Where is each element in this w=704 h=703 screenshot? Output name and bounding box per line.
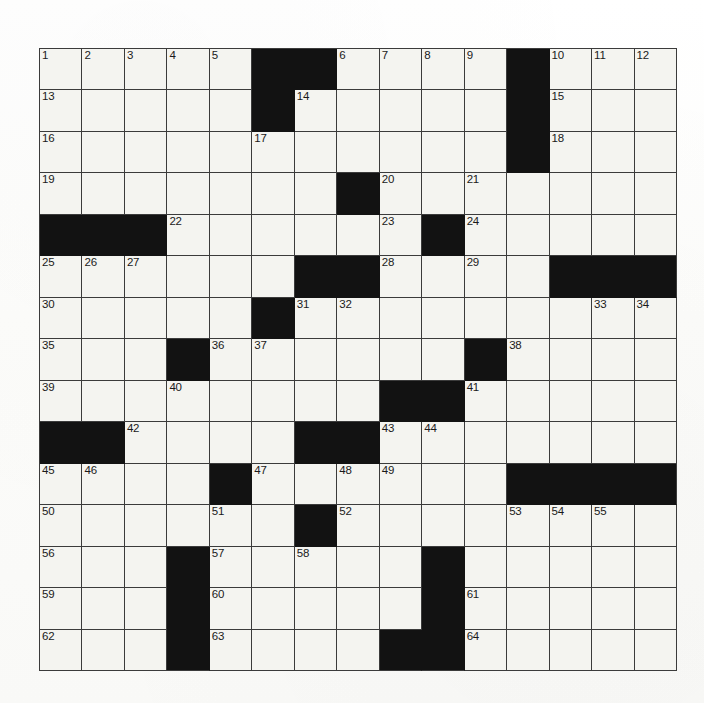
crossword-cell[interactable]: 12	[635, 49, 677, 90]
crossword-cell[interactable]: 29	[465, 256, 507, 297]
crossword-cell[interactable]	[167, 256, 209, 297]
crossword-cell[interactable]	[592, 173, 634, 214]
crossword-cell[interactable]: 35	[40, 339, 82, 380]
crossword-cell[interactable]	[210, 381, 252, 422]
crossword-cell[interactable]	[167, 132, 209, 173]
crossword-cell[interactable]	[507, 173, 549, 214]
crossword-cell[interactable]: 7	[380, 49, 422, 90]
crossword-cell[interactable]: 32	[337, 298, 379, 339]
crossword-cell[interactable]	[592, 588, 634, 629]
crossword-cell[interactable]	[380, 505, 422, 546]
crossword-cell[interactable]	[82, 588, 124, 629]
crossword-cell[interactable]: 48	[337, 464, 379, 505]
crossword-cell[interactable]: 64	[465, 630, 507, 671]
crossword-cell[interactable]	[635, 588, 677, 629]
crossword-cell[interactable]: 45	[40, 464, 82, 505]
crossword-cell[interactable]: 46	[82, 464, 124, 505]
crossword-cell[interactable]: 22	[167, 215, 209, 256]
crossword-cell[interactable]: 47	[252, 464, 294, 505]
crossword-cell[interactable]	[550, 339, 592, 380]
crossword-cell[interactable]	[465, 505, 507, 546]
crossword-cell[interactable]	[125, 547, 167, 588]
crossword-cell[interactable]	[82, 339, 124, 380]
crossword-cell[interactable]	[252, 381, 294, 422]
crossword-cell[interactable]: 53	[507, 505, 549, 546]
crossword-cell[interactable]	[507, 256, 549, 297]
crossword-cell[interactable]: 55	[592, 505, 634, 546]
crossword-cell[interactable]	[635, 381, 677, 422]
crossword-cell[interactable]	[252, 547, 294, 588]
crossword-cell[interactable]	[465, 298, 507, 339]
crossword-cell[interactable]	[592, 381, 634, 422]
crossword-cell[interactable]	[422, 132, 464, 173]
crossword-cell[interactable]	[592, 215, 634, 256]
crossword-cell[interactable]	[295, 588, 337, 629]
crossword-cell[interactable]: 18	[550, 132, 592, 173]
crossword-cell[interactable]: 41	[465, 381, 507, 422]
crossword-cell[interactable]	[337, 547, 379, 588]
crossword-cell[interactable]	[82, 505, 124, 546]
crossword-cell[interactable]	[125, 381, 167, 422]
crossword-cell[interactable]: 9	[465, 49, 507, 90]
crossword-cell[interactable]	[125, 339, 167, 380]
crossword-cell[interactable]	[167, 422, 209, 463]
crossword-cell[interactable]: 42	[125, 422, 167, 463]
crossword-cell[interactable]	[295, 630, 337, 671]
crossword-cell[interactable]	[422, 298, 464, 339]
crossword-cell[interactable]	[295, 132, 337, 173]
crossword-cell[interactable]	[337, 215, 379, 256]
crossword-cell[interactable]	[252, 256, 294, 297]
crossword-cell[interactable]: 49	[380, 464, 422, 505]
crossword-cell[interactable]	[550, 381, 592, 422]
crossword-cell[interactable]	[507, 588, 549, 629]
crossword-cell[interactable]	[507, 630, 549, 671]
crossword-cell[interactable]: 4	[167, 49, 209, 90]
crossword-cell[interactable]	[167, 464, 209, 505]
crossword-cell[interactable]: 44	[422, 422, 464, 463]
crossword-cell[interactable]: 61	[465, 588, 507, 629]
crossword-cell[interactable]	[465, 132, 507, 173]
crossword-cell[interactable]: 17	[252, 132, 294, 173]
crossword-cell[interactable]: 58	[295, 547, 337, 588]
crossword-cell[interactable]: 34	[635, 298, 677, 339]
crossword-cell[interactable]	[635, 215, 677, 256]
crossword-cell[interactable]	[337, 630, 379, 671]
crossword-cell[interactable]	[380, 588, 422, 629]
crossword-cell[interactable]: 21	[465, 173, 507, 214]
crossword-cell[interactable]: 19	[40, 173, 82, 214]
crossword-cell[interactable]: 5	[210, 49, 252, 90]
crossword-cell[interactable]	[380, 132, 422, 173]
crossword-cell[interactable]: 63	[210, 630, 252, 671]
crossword-cell[interactable]	[295, 339, 337, 380]
crossword-cell[interactable]	[210, 256, 252, 297]
crossword-cell[interactable]: 43	[380, 422, 422, 463]
crossword-cell[interactable]: 3	[125, 49, 167, 90]
crossword-cell[interactable]: 28	[380, 256, 422, 297]
crossword-cell[interactable]	[465, 547, 507, 588]
crossword-cell[interactable]: 24	[465, 215, 507, 256]
crossword-cell[interactable]	[82, 630, 124, 671]
crossword-cell[interactable]: 37	[252, 339, 294, 380]
crossword-cell[interactable]	[82, 547, 124, 588]
crossword-cell[interactable]	[125, 298, 167, 339]
crossword-cell[interactable]	[507, 298, 549, 339]
crossword-cell[interactable]: 62	[40, 630, 82, 671]
crossword-cell[interactable]: 1	[40, 49, 82, 90]
crossword-cell[interactable]: 13	[40, 90, 82, 131]
crossword-cell[interactable]	[422, 505, 464, 546]
crossword-cell[interactable]	[125, 90, 167, 131]
crossword-cell[interactable]: 40	[167, 381, 209, 422]
crossword-cell[interactable]	[82, 132, 124, 173]
crossword-cell[interactable]	[635, 90, 677, 131]
crossword-cell[interactable]	[295, 381, 337, 422]
crossword-cell[interactable]	[507, 547, 549, 588]
crossword-cell[interactable]: 39	[40, 381, 82, 422]
crossword-cell[interactable]	[380, 90, 422, 131]
crossword-cell[interactable]: 14	[295, 90, 337, 131]
crossword-cell[interactable]: 31	[295, 298, 337, 339]
crossword-cell[interactable]	[550, 630, 592, 671]
crossword-cell[interactable]	[82, 90, 124, 131]
crossword-cell[interactable]: 26	[82, 256, 124, 297]
crossword-cell[interactable]: 10	[550, 49, 592, 90]
crossword-cell[interactable]: 11	[592, 49, 634, 90]
